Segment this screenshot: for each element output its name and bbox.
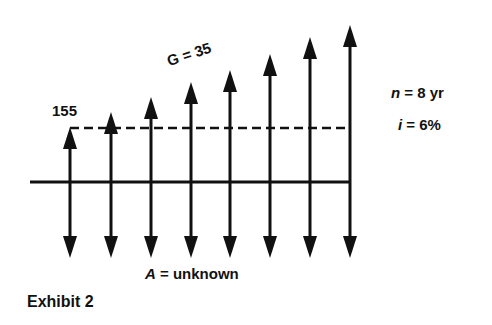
down-arrow-6 — [263, 182, 277, 258]
arrow-head-up-icon — [63, 127, 77, 149]
arrow-head-up-icon — [184, 82, 198, 104]
down-arrow-3 — [144, 182, 158, 258]
cash-flow-diagram — [0, 0, 492, 325]
up-arrow-3 — [144, 97, 158, 182]
arrow-head-down-icon — [184, 236, 198, 258]
rate-label: i = 6% — [398, 116, 441, 133]
arrow-head-down-icon — [63, 236, 77, 258]
up-arrow-5 — [223, 70, 237, 182]
annuity-value: = unknown — [160, 265, 239, 282]
arrow-head-up-icon — [303, 37, 317, 59]
down-arrow-2 — [104, 182, 118, 258]
rate-value: = 6% — [406, 116, 441, 133]
arrow-head-down-icon — [343, 236, 357, 258]
arrow-head-up-icon — [343, 25, 357, 47]
arrow-head-down-icon — [104, 236, 118, 258]
period-label: n = 8 yr — [391, 84, 444, 101]
first-payment-label: 155 — [52, 102, 77, 119]
arrow-head-down-icon — [263, 236, 277, 258]
down-arrow-5 — [223, 182, 237, 258]
arrow-head-down-icon — [144, 236, 158, 258]
down-arrows — [63, 182, 357, 258]
arrow-head-up-icon — [223, 70, 237, 92]
up-arrow-8 — [343, 25, 357, 182]
arrow-head-up-icon — [263, 54, 277, 76]
up-arrow-6 — [263, 54, 277, 182]
period-symbol: n — [391, 84, 400, 101]
arrow-head-down-icon — [223, 236, 237, 258]
up-arrow-2 — [104, 112, 118, 182]
exhibit-caption: Exhibit 2 — [27, 293, 94, 311]
up-arrow-1 — [63, 127, 77, 182]
up-arrow-4 — [184, 82, 198, 182]
down-arrow-4 — [184, 182, 198, 258]
down-arrow-8 — [343, 182, 357, 258]
arrow-head-up-icon — [144, 97, 158, 119]
down-arrow-1 — [63, 182, 77, 258]
annuity-label: A = unknown — [145, 265, 239, 282]
down-arrow-7 — [303, 182, 317, 258]
up-arrow-7 — [303, 37, 317, 182]
annuity-symbol: A — [145, 265, 156, 282]
period-value: = 8 yr — [404, 84, 444, 101]
arrow-head-up-icon — [104, 112, 118, 134]
rate-symbol: i — [398, 116, 402, 133]
arrow-head-down-icon — [303, 236, 317, 258]
